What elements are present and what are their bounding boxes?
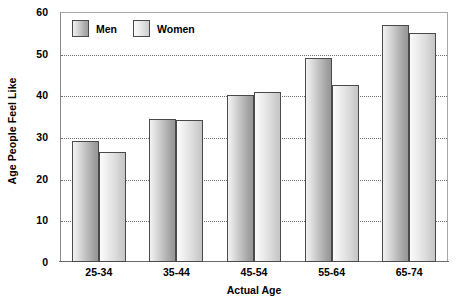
legend-swatch-men-icon [72, 20, 89, 37]
x-axis-tick-45-54: 45-54 [241, 266, 268, 278]
bar-men-35-44 [149, 119, 176, 262]
y-axis-tick-30: 30 [36, 131, 48, 143]
bar-men-45-54 [227, 95, 254, 262]
x-axis-title: Actual Age [60, 284, 448, 296]
bar-women-55-64 [332, 85, 359, 262]
bar-men-25-34 [72, 141, 99, 262]
bar-women-45-54 [254, 92, 281, 262]
y-axis-title: Age People Feel Like [0, 0, 24, 262]
bars-layer [60, 12, 448, 262]
y-axis-tick-60: 60 [36, 6, 48, 18]
x-axis-tick-55-64: 55-64 [318, 266, 345, 278]
bar-men-55-64 [305, 58, 332, 262]
legend-label-women: Women [157, 23, 195, 35]
x-axis-tick-labels: 25-3435-4445-5455-6465-74 [60, 266, 448, 282]
bar-group-25-34 [72, 12, 126, 262]
bar-group-35-44 [149, 12, 203, 262]
y-axis-tick-labels: 0102030405060 [24, 12, 54, 262]
bar-chart: Age People Feel Like 0102030405060 Men W… [0, 0, 468, 300]
legend-item-men: Men [72, 20, 117, 37]
y-axis-tick-50: 50 [36, 48, 48, 60]
bar-women-25-34 [99, 152, 126, 262]
legend-item-women: Women [133, 20, 195, 37]
legend-label-men: Men [96, 23, 117, 35]
y-axis-tick-20: 20 [36, 173, 48, 185]
bar-group-45-54 [227, 12, 281, 262]
legend-swatch-women-icon [133, 20, 150, 37]
bar-group-65-74 [382, 12, 436, 262]
y-axis-tick-0: 0 [42, 256, 48, 268]
y-axis-title-label: Age People Feel Like [6, 77, 18, 184]
bar-women-35-44 [176, 120, 203, 262]
y-axis-tick-40: 40 [36, 89, 48, 101]
chart-legend: Men Women [68, 18, 199, 39]
x-axis-tick-25-34: 25-34 [85, 266, 112, 278]
x-axis-tick-35-44: 35-44 [163, 266, 190, 278]
y-axis-tick-10: 10 [36, 214, 48, 226]
bar-men-65-74 [382, 25, 409, 263]
x-axis-tick-65-74: 65-74 [396, 266, 423, 278]
bar-group-55-64 [305, 12, 359, 262]
bar-women-65-74 [409, 33, 436, 262]
